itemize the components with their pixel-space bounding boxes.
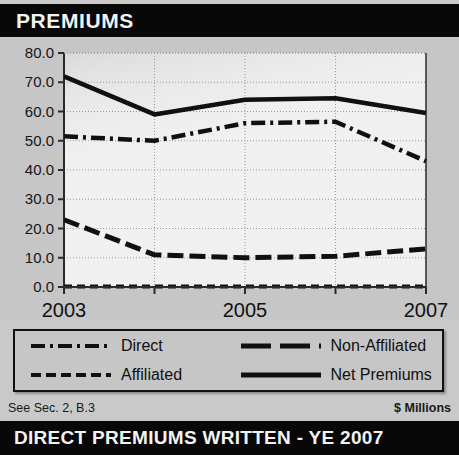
footer-source-note: See Sec. 2, B.3 xyxy=(8,401,95,415)
footer-units-note: $ Millions xyxy=(394,401,451,415)
legend-swatch-fine-dash xyxy=(29,368,113,382)
chart-page: PREMIUMS 0.010.020.030.040.050.060.070.0… xyxy=(0,0,459,455)
y-tick-label: 80.0 xyxy=(25,44,54,61)
bottom-title: DIRECT PREMIUMS WRITTEN - YE 2007 xyxy=(0,427,384,449)
chart-panel: 0.010.020.030.040.050.060.070.080.020032… xyxy=(0,39,459,319)
bottom-title-banner: DIRECT PREMIUMS WRITTEN - YE 2007 xyxy=(0,421,459,455)
y-tick-label: 20.0 xyxy=(25,220,54,237)
legend-item-net-premiums: Net Premiums xyxy=(229,366,443,384)
legend-item-non-affiliated: Non-Affiliated xyxy=(229,337,443,355)
legend-label-non-affiliated: Non-Affiliated xyxy=(331,337,427,355)
legend-item-direct: Direct xyxy=(15,337,229,355)
x-tick-label: 2007 xyxy=(404,299,449,319)
legend-swatch-long-dash xyxy=(239,339,323,353)
y-tick-label: 50.0 xyxy=(25,132,54,149)
chart-legend: Direct Non-Affiliated Affiliated Net Pre… xyxy=(13,329,444,392)
y-tick-label: 40.0 xyxy=(25,161,54,178)
x-tick-label: 2003 xyxy=(42,299,87,319)
page-title: PREMIUMS xyxy=(0,9,134,33)
page-title-banner: PREMIUMS xyxy=(0,4,459,37)
y-tick-label: 10.0 xyxy=(25,249,54,266)
premiums-line-chart: 0.010.020.030.040.050.060.070.080.020032… xyxy=(0,39,459,319)
legend-label-affiliated: Affiliated xyxy=(121,366,182,384)
legend-swatch-solid xyxy=(239,368,323,382)
footer-note-row: See Sec. 2, B.3 $ Millions xyxy=(0,396,459,419)
y-tick-label: 30.0 xyxy=(25,190,54,207)
y-tick-label: 70.0 xyxy=(25,73,54,90)
legend-label-net-premiums: Net Premiums xyxy=(331,366,432,384)
legend-label-direct: Direct xyxy=(121,337,163,355)
legend-item-affiliated: Affiliated xyxy=(15,366,229,384)
y-tick-label: 0.0 xyxy=(33,278,54,295)
legend-swatch-dash-dot xyxy=(29,339,113,353)
x-tick-label: 2005 xyxy=(223,299,268,319)
y-tick-label: 60.0 xyxy=(25,103,54,120)
